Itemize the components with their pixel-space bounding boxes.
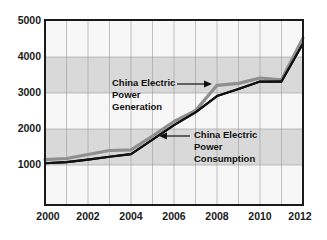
xtick-2000: 2000 bbox=[36, 210, 60, 222]
chart-container: 5000 4000 3000 2000 1000 2000 2002 2004 … bbox=[0, 0, 327, 240]
xtick-2012: 2012 bbox=[288, 210, 312, 222]
x-axis-labels: 2000 2002 2004 2006 2008 2010 2012 bbox=[36, 210, 312, 222]
xtick-2008: 2008 bbox=[205, 210, 229, 222]
annotation-consumption-line2: Power bbox=[194, 141, 223, 152]
annotation-generation-line2: Power bbox=[112, 89, 141, 100]
annotation-generation-line1: China Electric bbox=[112, 77, 175, 88]
annotation-consumption-line1: China Electric bbox=[194, 129, 257, 140]
ytick-1000: 1000 bbox=[18, 158, 42, 170]
ytick-2000: 2000 bbox=[18, 122, 42, 134]
ytick-5000: 5000 bbox=[18, 14, 42, 26]
line-chart: 5000 4000 3000 2000 1000 2000 2002 2004 … bbox=[0, 0, 327, 240]
xtick-2006: 2006 bbox=[162, 210, 186, 222]
xtick-2004: 2004 bbox=[119, 210, 143, 222]
ytick-4000: 4000 bbox=[18, 50, 42, 62]
annotation-generation-line3: Generation bbox=[112, 101, 162, 112]
annotation-consumption-line3: Consumption bbox=[194, 153, 255, 164]
xtick-2010: 2010 bbox=[248, 210, 272, 222]
ytick-3000: 3000 bbox=[18, 86, 42, 98]
xtick-2002: 2002 bbox=[76, 210, 100, 222]
y-axis-labels: 5000 4000 3000 2000 1000 bbox=[18, 14, 42, 170]
